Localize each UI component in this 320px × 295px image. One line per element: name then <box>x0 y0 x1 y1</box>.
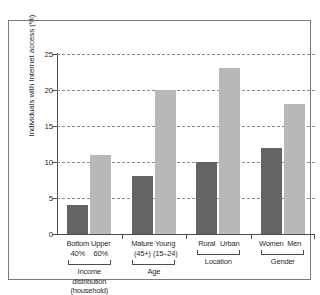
x-axis-group-brace <box>197 250 240 255</box>
x-axis-labels: Bottom40%Upper60%Mature(45+)Young(15–24)… <box>57 237 315 295</box>
bar <box>261 148 282 234</box>
x-axis-group-brace <box>261 250 304 255</box>
x-axis-group-brace <box>132 260 175 265</box>
x-axis-group-brace <box>68 260 111 265</box>
y-axis-tick-label: 20 <box>31 86 53 95</box>
y-axis-tick <box>52 198 57 199</box>
chart-figure: Individuals with Internet access (%) 051… <box>0 0 320 295</box>
x-axis-group-separator <box>122 234 123 239</box>
y-axis-tick-label: 25 <box>31 50 53 59</box>
gridline <box>57 126 315 127</box>
bar <box>90 155 111 234</box>
x-axis-group-label: Age <box>120 267 188 277</box>
bar <box>196 162 217 234</box>
bar <box>284 104 305 234</box>
gridline <box>57 54 315 55</box>
y-axis-tick <box>52 126 57 127</box>
gridline <box>57 90 315 91</box>
y-axis-tick-label: 0 <box>31 230 53 239</box>
y-axis-tick-label: 15 <box>31 122 53 131</box>
x-axis-group-separator <box>186 234 187 239</box>
bar <box>132 176 153 234</box>
x-axis-group-label: Incomedistribution(household) <box>55 267 123 295</box>
x-axis-group-label: Gender <box>249 257 317 267</box>
x-axis-category-label: Men <box>270 239 318 249</box>
x-axis-group-separator <box>314 234 315 239</box>
y-axis-tick <box>52 162 57 163</box>
y-axis-tick-label: 5 <box>31 194 53 203</box>
y-axis-tick-labels: 0510152025 <box>31 54 53 234</box>
x-axis-group-label: Location <box>184 257 252 267</box>
chart-frame: Individuals with Internet access (%) 051… <box>8 20 311 280</box>
plot-area <box>57 54 315 234</box>
y-axis-tick <box>52 90 57 91</box>
y-axis-tick <box>52 54 57 55</box>
bar <box>155 90 176 234</box>
x-axis-group-separator <box>251 234 252 239</box>
y-axis-tick-label: 10 <box>31 158 53 167</box>
bar <box>67 205 88 234</box>
y-axis-tick <box>52 234 57 235</box>
bar <box>219 68 240 234</box>
